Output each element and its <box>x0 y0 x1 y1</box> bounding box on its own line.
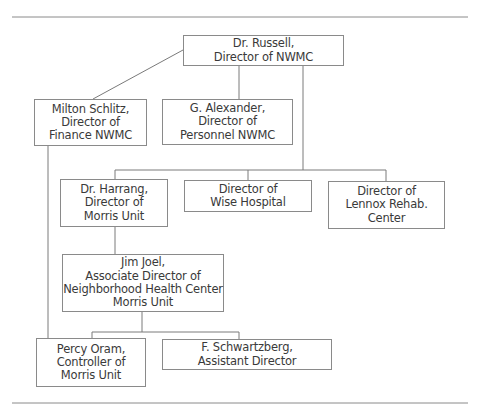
node-joel-line4: Morris Unit <box>113 296 173 309</box>
node-joel: Jim Joel, Associate Director of Neighbor… <box>62 254 224 312</box>
node-harrang: Dr. Harrang, Director of Morris Unit <box>60 179 168 227</box>
node-joel-line2: Associate Director of <box>85 270 200 283</box>
node-schlitz-line3: Finance NWMC <box>49 129 132 142</box>
edge-russell-schlitz <box>93 50 183 99</box>
node-lennox-line2: Lennox Rehab. <box>345 198 427 211</box>
node-schwartzberg-line1: F. Schwartzberg, <box>201 341 292 354</box>
node-lennox: Director of Lennox Rehab. Center <box>328 181 445 229</box>
node-schlitz: Milton Schlitz, Director of Finance NWMC <box>34 99 147 146</box>
node-russell-line2: Director of NWMC <box>214 51 313 64</box>
node-alexander-line2: Director of <box>198 115 257 128</box>
node-joel-line1: Jim Joel, <box>121 256 165 269</box>
node-schlitz-line1: Milton Schlitz, <box>52 103 129 116</box>
node-wise-line1: Director of <box>219 183 278 196</box>
node-lennox-line3: Center <box>368 212 406 225</box>
node-joel-line3: Neighborhood Health Center <box>63 283 223 296</box>
node-schwartzberg: F. Schwartzberg, Assistant Director <box>162 339 332 370</box>
node-oram: Percy Oram, Controller of Morris Unit <box>36 338 146 387</box>
node-schwartzberg-line2: Assistant Director <box>198 355 297 368</box>
node-oram-line1: Percy Oram, <box>57 343 125 356</box>
node-harrang-line2: Director of <box>85 196 144 209</box>
node-wise: Director of Wise Hospital <box>184 180 312 212</box>
node-alexander-line3: Personnel NWMC <box>180 129 275 142</box>
node-alexander: G. Alexander, Director of Personnel NWMC <box>162 99 293 145</box>
node-wise-line2: Wise Hospital <box>210 196 285 209</box>
node-russell: Dr. Russell, Director of NWMC <box>183 35 344 66</box>
node-schlitz-line2: Director of <box>61 116 120 129</box>
node-oram-line2: Controller of <box>57 356 126 369</box>
node-alexander-line1: G. Alexander, <box>190 102 265 115</box>
node-harrang-line1: Dr. Harrang, <box>80 183 148 196</box>
node-lennox-line1: Director of <box>357 185 416 198</box>
node-oram-line3: Morris Unit <box>61 369 121 382</box>
node-harrang-line3: Morris Unit <box>84 210 144 223</box>
node-russell-line1: Dr. Russell, <box>233 37 294 50</box>
